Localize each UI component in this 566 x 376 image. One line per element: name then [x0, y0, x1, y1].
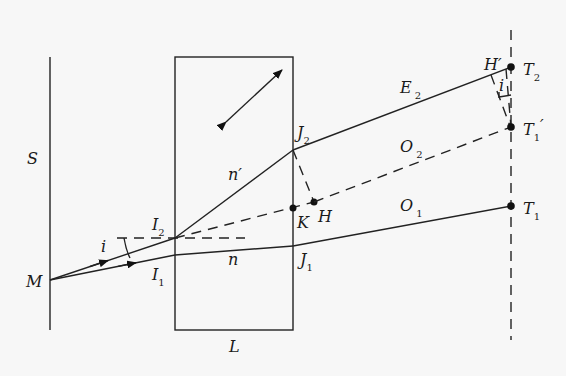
plate-label: L: [228, 337, 240, 356]
perpendicular-Hprime-T1prime-dashed: [506, 69, 511, 127]
angle-label-i-left: i: [101, 237, 106, 256]
point-label-T1-prime: T1′: [523, 116, 544, 143]
angle-label-i-right: i: [499, 76, 504, 95]
point-T2: [507, 63, 515, 71]
point-label-T2: T2: [523, 60, 540, 83]
point-label-J1: J1: [297, 250, 313, 273]
perpendicular-J2-H-dashed: [293, 150, 314, 202]
point-T1-prime: [507, 123, 515, 131]
optic-axis-double-arrow-icon: [226, 70, 282, 122]
ray-label-O2: O2: [400, 137, 423, 160]
screen-label: S: [27, 149, 38, 168]
point-label-I1: I1: [151, 265, 165, 288]
optics-diagram: S L M i I2 I1 n′ n K H J2 J1 E2 O2 O1: [0, 0, 566, 376]
ray-M-I1-arrow-icon: [118, 263, 136, 267]
ray-label-O1: O1: [400, 196, 423, 219]
source-label: M: [25, 272, 43, 291]
ray-I2-J2: [175, 150, 293, 238]
index-label-n-prime: n′: [228, 165, 242, 184]
angle-arc-i-right: [499, 95, 511, 97]
point-K: [290, 205, 297, 212]
point-label-J2: J2: [294, 123, 310, 146]
point-label-H: H: [317, 207, 333, 226]
ray-M-I2-arrow-icon: [90, 261, 108, 267]
point-label-I2: I2: [151, 215, 165, 238]
point-label-T1: T1: [523, 199, 540, 222]
ray-label-E2: E2: [399, 78, 421, 101]
point-label-H-prime: H′: [483, 55, 502, 74]
index-label-n: n: [228, 250, 238, 269]
point-T1: [507, 202, 515, 210]
point-label-K: K: [296, 213, 310, 232]
